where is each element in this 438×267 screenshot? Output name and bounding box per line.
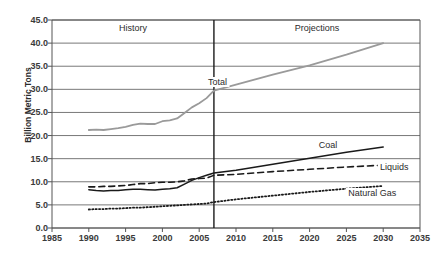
coal-label: Coal — [317, 140, 340, 150]
liquids-label: Liquids — [378, 162, 411, 172]
natural-gas-label: Natural Gas — [346, 188, 398, 198]
x-tick-label: 2025 — [326, 233, 366, 243]
x-tick-label: 2020 — [290, 233, 330, 243]
plot-canvas — [0, 0, 438, 267]
series-line-liquids — [89, 165, 383, 187]
x-tick-label: 1995 — [106, 233, 146, 243]
history-label: History — [117, 23, 149, 33]
total-label: Total — [206, 77, 229, 87]
x-tick-label: 1985 — [32, 233, 72, 243]
series-line-total — [89, 43, 383, 130]
emissions-line-chart: 0.05.010.015.020.025.030.035.040.045.0 B… — [0, 0, 438, 267]
x-tick-label: 2015 — [253, 233, 293, 243]
x-tick-label: 1990 — [69, 233, 109, 243]
x-tick-label: 2035 — [400, 233, 438, 243]
x-tick-label: 2005 — [179, 233, 219, 243]
x-tick-label: 2010 — [216, 233, 256, 243]
x-tick-label: 2030 — [363, 233, 403, 243]
projections-label: Projections — [293, 23, 342, 33]
x-tick-label: 2000 — [142, 233, 182, 243]
